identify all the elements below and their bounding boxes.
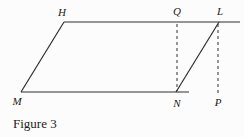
vertex-label-H: H bbox=[57, 6, 67, 18]
vertex-label-N: N bbox=[172, 97, 181, 109]
vertex-label-P: P bbox=[214, 96, 222, 108]
vertex-label-L: L bbox=[216, 5, 223, 17]
vertex-label-Q: Q bbox=[173, 5, 181, 17]
edge-NL bbox=[176, 22, 219, 92]
left-edge-HM bbox=[21, 22, 64, 92]
vertex-label-M: M bbox=[11, 95, 22, 107]
figure-caption: Figure 3 bbox=[13, 116, 57, 132]
geometry-figure: HQLMNP Figure 3 bbox=[0, 0, 244, 137]
